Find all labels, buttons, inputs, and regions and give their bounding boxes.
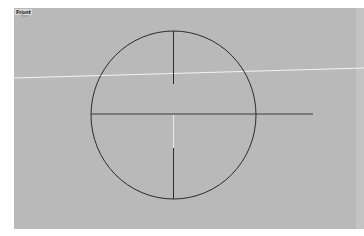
drawing-canvas[interactable] (14, 8, 364, 229)
front-viewport[interactable]: Front (14, 8, 364, 229)
axis-triad-icon (20, 8, 30, 18)
construction-line[interactable] (14, 68, 364, 78)
